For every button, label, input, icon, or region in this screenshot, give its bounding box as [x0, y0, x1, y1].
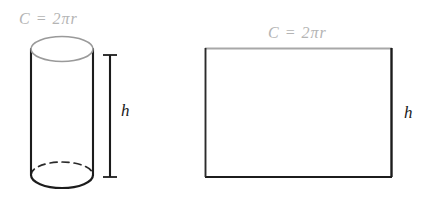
- cylinder-body-fill: [31, 49, 93, 188]
- cylinder-height-dimension: [103, 55, 117, 177]
- figure-canvas: [0, 0, 432, 206]
- cylinder-net-figure: C = 2πr C = 2πr h h: [0, 0, 432, 206]
- cylinder-shape: [31, 37, 93, 189]
- rectangle-circumference-label: C = 2πr: [268, 25, 327, 41]
- unrolled-rectangle-shape: [205, 48, 392, 177]
- cylinder-top-face: [31, 37, 93, 62]
- cylinder-circumference-label: C = 2πr: [19, 11, 78, 27]
- rectangle-interior: [205, 48, 392, 177]
- cylinder-height-label: h: [121, 102, 130, 119]
- rectangle-height-label: h: [404, 104, 413, 121]
